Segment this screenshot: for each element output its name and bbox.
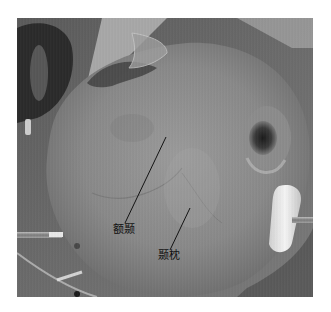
ear-canal: [249, 121, 277, 155]
label-frontotemporal: 额颞: [113, 224, 135, 236]
label-temporo-occipital: 颞枕: [158, 250, 180, 262]
fixation-pin-right: [292, 217, 313, 223]
surgical-photo-figure: 额颞 颞枕: [17, 18, 313, 297]
